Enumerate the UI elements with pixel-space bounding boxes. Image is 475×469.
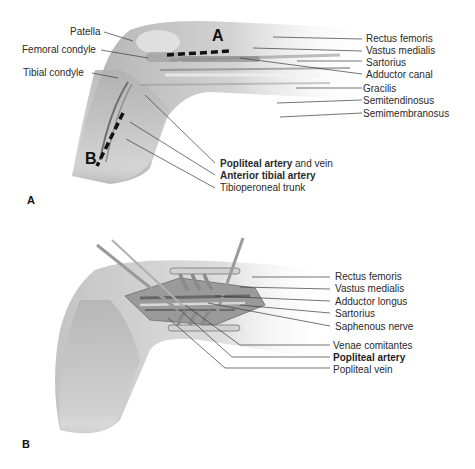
label-adductor-canal: Adductor canal [366,69,433,80]
label-patella: Patella [70,26,101,37]
lower-retractor [168,325,240,331]
label-and-vein: and vein [292,158,333,169]
label-venae-comitantes: Venae comitantes [333,340,413,351]
label-semitendinosus: Semitendinosus [363,95,434,106]
label-vastus-medialis-a: Vastus medialis [366,45,435,56]
label-semimembranosus: Semimembranosus [363,108,449,119]
label-sartorius-b: Sartorius [335,308,375,319]
panel-letter-a: A [27,194,35,206]
label-tibioperoneal-trunk: Tibioperoneal trunk [220,182,305,193]
panel-letter-b: B [22,438,30,450]
label-anterior-tibial-artery: Anterior tibial artery [220,170,316,181]
panel-b-artwork [55,238,330,436]
label-popliteal-artery-and-vein: Popliteal artery and vein [220,158,333,169]
label-adductor-longus: Adductor longus [335,296,407,307]
label-rectus-femoris-b: Rectus femoris [335,271,402,282]
label-sartorius-a: Sartorius [366,57,406,68]
label-saphenous-nerve: Saphenous nerve [335,321,413,332]
incision-a-label: A [212,27,224,45]
label-popliteal-vein: Popliteal vein [333,364,392,375]
label-vastus-medialis-b: Vastus medialis [335,283,404,294]
incision-b-label: B [85,150,97,168]
label-popliteal-artery-bold: Popliteal artery [220,158,292,169]
patella-shape [136,30,180,54]
label-anterior-tibial-artery-bold: Anterior tibial artery [220,170,316,181]
label-rectus-femoris-a: Rectus femoris [366,33,433,44]
label-tibial-condyle: Tibial condyle [23,67,84,78]
label-gracilis: Gracilis [363,83,396,94]
label-femoral-condyle: Femoral condyle [22,44,96,55]
label-popliteal-artery-b: Popliteal artery [333,352,405,363]
